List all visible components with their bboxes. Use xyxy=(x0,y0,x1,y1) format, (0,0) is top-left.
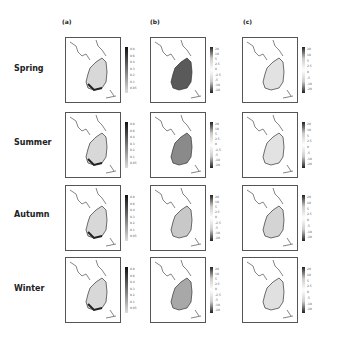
map-panel xyxy=(150,112,206,178)
colorbar-tick: 0.2 xyxy=(130,293,135,297)
colorbar xyxy=(302,122,305,168)
colorbar xyxy=(210,195,213,241)
colorbar-tick: 0.6 xyxy=(130,129,135,133)
colorbar-tick: 5 xyxy=(215,57,217,61)
colorbar-tick: -10 xyxy=(307,82,312,86)
map-panel xyxy=(242,37,298,103)
row-label-summer: Summer xyxy=(14,138,52,147)
map-panel xyxy=(150,257,206,323)
colorbar-tick: 20 xyxy=(307,267,311,271)
colorbar-tick: -10 xyxy=(215,83,220,87)
colorbar-tick: 0 xyxy=(215,215,217,219)
map-panel xyxy=(65,257,121,323)
colorbar-tick: 20 xyxy=(307,47,311,51)
colorbar-tick: 0.1 xyxy=(130,300,135,304)
korea-map-icon xyxy=(243,186,297,250)
colorbar-tick: -20 xyxy=(215,88,220,92)
colorbar-tick: 5 xyxy=(307,134,309,138)
colorbar xyxy=(302,195,305,241)
map-panel xyxy=(242,112,298,178)
colorbar-tick: 0.4 xyxy=(130,135,135,139)
colorbar-tick: -2.5 xyxy=(215,293,221,297)
colorbar-tick: 0.1 xyxy=(130,80,135,84)
map-panel xyxy=(65,185,121,251)
colorbar-tick: 10 xyxy=(215,200,219,204)
colorbar-tick: 0.2 xyxy=(130,73,135,77)
colorbar-tick: 20 xyxy=(215,47,219,51)
colorbar-tick: -10 xyxy=(215,303,220,307)
korea-map-icon xyxy=(151,186,205,250)
colorbar-tick: -20 xyxy=(307,87,312,91)
colorbar-tick: -20 xyxy=(307,235,312,239)
colorbar xyxy=(302,267,305,313)
colorbar-tick: 5 xyxy=(307,279,309,283)
map-panel xyxy=(65,112,121,178)
colorbar-tick: 0.6 xyxy=(130,274,135,278)
map-panel xyxy=(242,257,298,323)
colorbar-tick: -5 xyxy=(215,153,218,157)
colorbar-tick: -2.5 xyxy=(215,221,221,225)
korea-map-icon xyxy=(66,113,120,177)
colorbar-tick: -20 xyxy=(215,236,220,240)
colorbar-tick: -5 xyxy=(307,224,310,228)
colorbar-tick: -20 xyxy=(215,163,220,167)
colorbar-tick: 0.8 xyxy=(130,195,135,199)
colorbar-tick: -5 xyxy=(215,78,218,82)
colorbar xyxy=(125,267,128,313)
korea-map-icon xyxy=(243,258,297,322)
colorbar-tick: 20 xyxy=(215,267,219,271)
colorbar-tick: 0.8 xyxy=(130,267,135,271)
colorbar-tick: 5 xyxy=(215,277,217,281)
colorbar-tick: -20 xyxy=(215,308,220,312)
colorbar-tick: 0 xyxy=(215,142,217,146)
colorbar-tick: 0.3 xyxy=(130,215,135,219)
colorbar-tick: 0.8 xyxy=(130,122,135,126)
colorbar-tick: 2.5 xyxy=(307,139,312,143)
korea-map-icon xyxy=(66,38,120,102)
colorbar xyxy=(125,122,128,168)
colorbar-tick: -20 xyxy=(307,162,312,166)
colorbar-tick: -10 xyxy=(307,302,312,306)
colorbar-tick: -10 xyxy=(307,157,312,161)
colorbar-tick: -5 xyxy=(215,226,218,230)
colorbar-tick: 0.3 xyxy=(130,67,135,71)
korea-map-icon xyxy=(243,113,297,177)
colorbar xyxy=(125,195,128,241)
colorbar-tick: 10 xyxy=(215,127,219,131)
colorbar-tick: 0.05 xyxy=(130,86,137,90)
colorbar-tick: 5 xyxy=(215,205,217,209)
colorbar-tick: -2.5 xyxy=(215,148,221,152)
colorbar-tick: -10 xyxy=(215,158,220,162)
colorbar-tick: 0.05 xyxy=(130,234,137,238)
korea-map-icon xyxy=(151,113,205,177)
colorbar-tick: 10 xyxy=(307,273,311,277)
colorbar-tick: 0 xyxy=(307,218,309,222)
colorbar-tick: 20 xyxy=(307,195,311,199)
colorbar-tick: 0.05 xyxy=(130,161,137,165)
colorbar-tick: 2.5 xyxy=(215,282,220,286)
colorbar-tick: -5 xyxy=(215,298,218,302)
colorbar-tick: -10 xyxy=(215,231,220,235)
colorbar xyxy=(210,47,213,93)
map-panel xyxy=(65,37,121,103)
colorbar xyxy=(210,267,213,313)
colorbar-tick: 0.2 xyxy=(130,221,135,225)
colorbar-tick: -5 xyxy=(307,76,310,80)
row-label-spring: Spring xyxy=(14,64,44,73)
korea-map-icon xyxy=(243,38,297,102)
colorbar-tick: 5 xyxy=(215,132,217,136)
colorbar-tick: 10 xyxy=(307,201,311,205)
colorbar-tick: -10 xyxy=(307,230,312,234)
colorbar-tick: 0.6 xyxy=(130,54,135,58)
colorbar-tick: 10 xyxy=(307,53,311,57)
colorbar-tick: 0.2 xyxy=(130,148,135,152)
colorbar-tick: 0.4 xyxy=(130,280,135,284)
colorbar-tick: 10 xyxy=(215,272,219,276)
korea-map-icon xyxy=(66,258,120,322)
map-panel xyxy=(150,37,206,103)
colorbar-tick: 0.4 xyxy=(130,208,135,212)
colorbar-tick: 10 xyxy=(215,52,219,56)
colorbar xyxy=(210,122,213,168)
row-label-autumn: Autumn xyxy=(14,210,49,219)
colorbar-tick: 5 xyxy=(307,207,309,211)
